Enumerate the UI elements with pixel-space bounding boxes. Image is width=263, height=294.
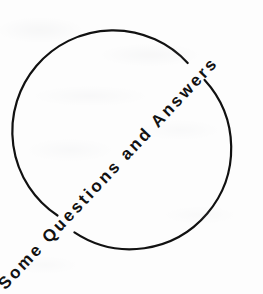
figure-canvas: Some Questions and Answers: [0, 0, 263, 294]
page-title: Some Questions and Answers: [0, 53, 222, 293]
circle-arc-minor: [74, 80, 231, 249]
circle-title-illustration: Some Questions and Answers: [0, 0, 263, 294]
circle-outline: [12, 30, 231, 249]
